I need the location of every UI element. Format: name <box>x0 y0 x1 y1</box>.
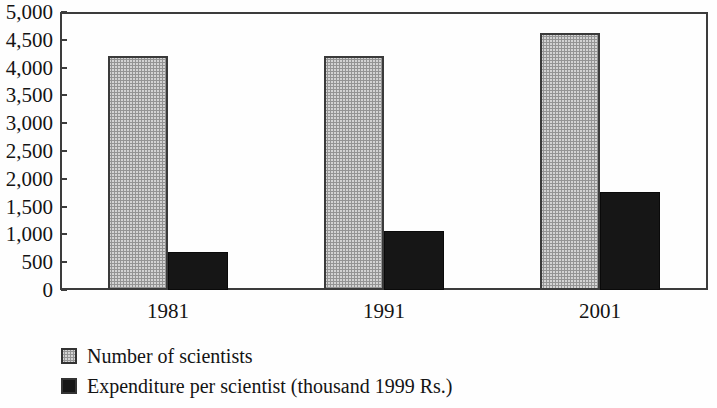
y-axis-tick <box>61 67 67 69</box>
y-axis-tick-label: 4,500 <box>0 29 53 51</box>
y-axis-tick-label: 4,000 <box>0 57 53 79</box>
bar-2001-series-0 <box>540 33 600 290</box>
y-axis-tick <box>61 289 67 291</box>
bar-2001-series-1 <box>600 192 660 290</box>
legend-label-number-of-scientists: Number of scientists <box>87 346 253 366</box>
x-axis-label-2001: 2001 <box>530 299 670 323</box>
y-axis-tick-label: 2,000 <box>0 168 53 190</box>
y-axis-tick <box>61 122 67 124</box>
scientists-expenditure-bar-chart: 05001,0001,5002,0002,5003,0003,5004,0004… <box>0 0 717 408</box>
x-axis-label-1981: 1981 <box>98 299 238 323</box>
y-axis-tick-label: 2,500 <box>0 140 53 162</box>
y-axis-tick-label: 3,500 <box>0 84 53 106</box>
y-axis-tick <box>61 11 67 13</box>
legend-item-expenditure-per-scientist: Expenditure per scientist (thousand 1999… <box>61 376 453 396</box>
y-axis-tick <box>61 233 67 235</box>
y-axis-tick-label: 5,000 <box>0 1 53 23</box>
x-axis-label-1991: 1991 <box>314 299 454 323</box>
y-axis-tick-label: 0 <box>0 279 53 301</box>
y-axis-tick <box>61 178 67 180</box>
y-axis-tick-label: 1,000 <box>0 223 53 245</box>
legend-swatch-black <box>61 378 77 394</box>
legend-label-expenditure-per-scientist: Expenditure per scientist (thousand 1999… <box>87 376 453 396</box>
y-axis-tick-label: 500 <box>0 251 53 273</box>
y-axis-tick <box>61 261 67 263</box>
bar-1981-series-0 <box>108 56 168 290</box>
bar-1981-series-1 <box>168 252 228 290</box>
y-axis-tick <box>61 206 67 208</box>
y-axis-tick <box>61 150 67 152</box>
y-axis-tick <box>61 94 67 96</box>
y-axis-tick <box>61 39 67 41</box>
y-axis-tick-label: 3,000 <box>0 112 53 134</box>
legend-swatch-gray <box>61 348 77 364</box>
y-axis-tick-label: 1,500 <box>0 196 53 218</box>
legend-item-number-of-scientists: Number of scientists <box>61 346 253 366</box>
bar-1991-series-0 <box>324 56 384 290</box>
bar-1991-series-1 <box>384 231 444 290</box>
